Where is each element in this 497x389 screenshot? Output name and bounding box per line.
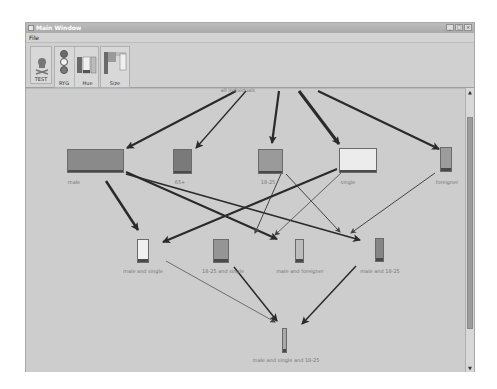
node-label-65plus: 65+ xyxy=(175,179,186,185)
skull-icon xyxy=(32,55,52,75)
graph-edges xyxy=(26,88,466,372)
main-window: Main Window _ □ × File TEST xyxy=(25,22,475,372)
close-button[interactable]: × xyxy=(464,24,472,31)
node-label-male-and-single-and-18-25: male and single and 18-25 xyxy=(253,357,320,363)
node-65plus[interactable] xyxy=(173,149,192,174)
node-label-male-and-foreigner: male and foreigner xyxy=(276,268,324,274)
node-18-25[interactable] xyxy=(258,149,283,174)
size-bars-icon xyxy=(102,50,130,76)
menu-bar: File xyxy=(26,33,474,43)
test-label: TEST xyxy=(31,76,51,82)
scroll-thumb[interactable] xyxy=(467,117,473,329)
node-male-and-single-and-18-25[interactable] xyxy=(282,328,287,353)
ryg-label: RYG xyxy=(55,80,73,86)
ryg-hue-group: RYG Hue xyxy=(54,46,99,88)
root-node-label[interactable]: all individuals xyxy=(221,88,255,93)
vertical-scrollbar[interactable]: ▲ ▼ xyxy=(465,88,474,372)
node-male-and-single[interactable] xyxy=(137,239,149,263)
node-label-18-25: 18-25 xyxy=(261,179,276,185)
maximize-button[interactable]: □ xyxy=(455,24,463,31)
app-icon xyxy=(28,25,34,31)
node-foreigner[interactable] xyxy=(440,147,452,172)
node-male-and-foreigner[interactable] xyxy=(295,239,304,263)
node-label-18-25-and-single: 18-25 and single xyxy=(202,268,244,274)
node-label-single: single xyxy=(341,179,356,185)
graph-canvas[interactable]: all individuals male 65+ 18-25 single fo… xyxy=(26,88,466,372)
node-male-and-18-25[interactable] xyxy=(375,238,384,262)
node-18-25-and-single[interactable] xyxy=(213,239,229,263)
node-label-foreigner: foreigner xyxy=(436,179,459,185)
hue-label: Hue xyxy=(75,80,100,86)
scroll-up-button[interactable]: ▲ xyxy=(467,89,473,95)
test-button[interactable]: TEST xyxy=(30,46,52,84)
ryg-button[interactable]: RYG xyxy=(55,47,73,87)
node-label-male: male xyxy=(68,179,80,185)
scroll-down-button[interactable]: ▼ xyxy=(467,365,473,371)
size-button[interactable]: Size xyxy=(100,46,130,88)
node-label-male-and-single: male and single xyxy=(123,268,163,274)
menu-file[interactable]: File xyxy=(29,33,39,42)
node-single[interactable] xyxy=(339,148,377,173)
node-label-male-and-18-25: male and 18-25 xyxy=(360,268,400,274)
minimize-button[interactable]: _ xyxy=(446,24,454,31)
node-male[interactable] xyxy=(67,149,124,173)
toolbar: TEST RYG Hue xyxy=(26,43,474,88)
hue-button[interactable]: Hue xyxy=(74,47,100,87)
size-label: Size xyxy=(101,80,129,86)
window-title: Main Window xyxy=(36,23,81,33)
hue-bars-icon xyxy=(75,55,99,77)
traffic-light-icon xyxy=(55,49,73,79)
title-bar[interactable]: Main Window _ □ × xyxy=(26,23,474,33)
